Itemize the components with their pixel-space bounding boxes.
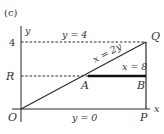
point-label-b: B (136, 79, 145, 92)
point-label-a: A (80, 79, 89, 92)
part-label: (c) (4, 7, 18, 18)
label-x-equals-8: x = 8 (122, 61, 147, 72)
x-axis-label: x (154, 103, 160, 114)
label-y-equals-0: y = 0 (71, 112, 97, 123)
y-axis-label: y (24, 25, 31, 36)
region-diagram: (c) y x 4 y = 4 R x = 2y x = 8 Q A B O P… (0, 0, 164, 134)
y-tick-4: 4 (9, 37, 15, 48)
label-y-equals-4: y = 4 (61, 29, 87, 40)
point-label-p: P (139, 111, 148, 124)
point-label-r: R (5, 70, 14, 83)
point-label-o: O (8, 111, 17, 124)
point-label-q: Q (151, 30, 160, 43)
label-x-equals-2y: x = 2y (91, 40, 124, 64)
